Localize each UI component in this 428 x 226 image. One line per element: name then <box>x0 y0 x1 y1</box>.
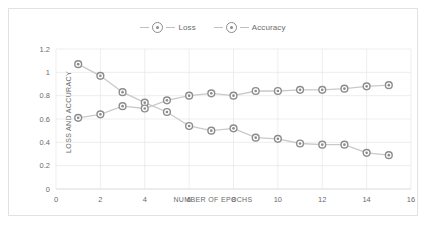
y-tick-label: 0.8 <box>40 91 50 100</box>
plot-area: 00.20.40.60.811.20246810121416 <box>56 49 411 189</box>
x-tick-label: 4 <box>143 195 147 204</box>
x-tick-label: 6 <box>187 195 191 204</box>
data-point-core <box>77 63 80 66</box>
data-point-core <box>99 113 102 116</box>
y-tick-label: 0.2 <box>40 161 50 170</box>
x-tick-label: 0 <box>54 195 58 204</box>
data-point-core <box>365 152 368 155</box>
data-point-core <box>99 75 102 78</box>
legend-label-loss: Loss <box>178 23 195 32</box>
data-point-core <box>232 94 235 97</box>
data-point-core <box>299 89 302 92</box>
data-point-core <box>166 111 169 114</box>
legend-item-loss[interactable]: Loss <box>140 22 195 33</box>
chart-container: Loss Accuracy LOSS AND ACCURACY NUMBER O… <box>8 8 418 216</box>
legend-line-icon <box>240 27 249 28</box>
y-tick-label: 1.2 <box>40 45 50 54</box>
data-point-core <box>210 129 213 132</box>
legend-item-accuracy[interactable]: Accuracy <box>214 22 286 33</box>
chart-legend: Loss Accuracy <box>9 22 417 33</box>
data-point-core <box>232 127 235 130</box>
data-point-core <box>343 143 346 146</box>
legend-line-icon <box>140 27 149 28</box>
data-point-core <box>277 138 280 141</box>
x-tick-label: 2 <box>98 195 102 204</box>
data-point-core <box>121 105 124 108</box>
data-point-core <box>254 136 257 139</box>
legend-line-icon <box>214 27 223 28</box>
x-tick-label: 16 <box>407 195 415 204</box>
x-axis-title: NUMBER OF EPOCHS <box>9 196 417 203</box>
x-tick-label: 14 <box>362 195 370 204</box>
data-point-core <box>321 89 324 92</box>
line-chart-svg: 00.20.40.60.811.20246810121416 <box>56 49 411 189</box>
data-point-core <box>277 90 280 93</box>
data-point-core <box>210 92 213 95</box>
data-point-core <box>188 125 191 128</box>
x-tick-label: 10 <box>274 195 282 204</box>
data-point-core <box>343 87 346 90</box>
data-point-core <box>299 142 302 145</box>
data-point-core <box>188 94 191 97</box>
x-tick-label: 8 <box>231 195 235 204</box>
y-tick-label: 0 <box>46 185 50 194</box>
legend-line-icon <box>166 27 175 28</box>
data-point-core <box>388 154 391 157</box>
data-point-core <box>77 117 80 120</box>
x-tick-label: 12 <box>318 195 326 204</box>
data-point-core <box>166 99 169 102</box>
data-point-core <box>388 84 391 87</box>
data-point-core <box>365 85 368 88</box>
legend-marker-icon <box>226 22 237 33</box>
y-tick-label: 1 <box>46 68 50 77</box>
data-point-core <box>143 107 146 110</box>
data-point-core <box>321 143 324 146</box>
y-tick-label: 0.4 <box>40 138 50 147</box>
data-point-core <box>143 101 146 104</box>
y-tick-label: 0.6 <box>40 115 50 124</box>
legend-marker-icon <box>152 22 163 33</box>
data-point-core <box>121 91 124 94</box>
legend-label-accuracy: Accuracy <box>252 23 286 32</box>
data-point-core <box>254 90 257 93</box>
